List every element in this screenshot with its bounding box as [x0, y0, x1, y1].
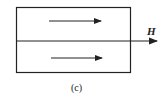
figure-caption: (c): [71, 82, 82, 93]
field-label: H: [147, 25, 156, 37]
domain-box: [17, 8, 131, 73]
